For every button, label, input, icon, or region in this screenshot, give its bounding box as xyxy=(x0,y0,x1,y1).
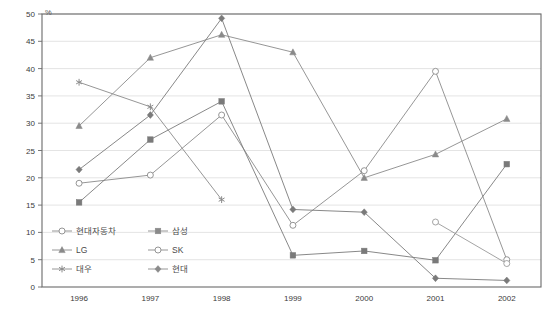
x-tick-label: 2000 xyxy=(355,294,373,303)
legend-marker-open-circle xyxy=(155,247,161,253)
data-point xyxy=(219,99,225,105)
series-line xyxy=(79,71,507,259)
data-point xyxy=(147,172,153,178)
legend-item-SK[interactable]: SK xyxy=(148,245,184,255)
y-tick-label: 25 xyxy=(26,147,35,156)
series-line xyxy=(79,18,507,280)
legend: 현대자동차삼성LGSK대우현대 xyxy=(52,226,188,274)
y-tick-label: 10 xyxy=(26,228,35,237)
data-point xyxy=(219,112,225,118)
legend-marker-open-circle xyxy=(59,228,65,234)
data-point xyxy=(290,206,296,213)
legend-item-대우[interactable]: 대우 xyxy=(52,264,92,274)
series-line xyxy=(79,101,507,260)
y-tick-label: 35 xyxy=(26,92,35,101)
data-point xyxy=(433,257,439,263)
data-point xyxy=(504,115,510,121)
data-point xyxy=(433,219,439,225)
y-tick-label: 40 xyxy=(26,65,35,74)
data-point xyxy=(218,31,224,37)
data-point xyxy=(361,168,367,174)
x-tick-label: 1998 xyxy=(213,294,231,303)
legend-label: 대우 xyxy=(76,264,92,274)
legend-item-현대[interactable]: 현대 xyxy=(148,264,188,274)
data-point xyxy=(433,68,439,74)
data-point xyxy=(76,79,82,86)
legend-label: 현대 xyxy=(172,264,188,274)
legend-label: 삼성 xyxy=(172,226,188,236)
legend-label: SK xyxy=(172,245,184,255)
series-LG xyxy=(76,31,510,180)
x-tick-label: 2001 xyxy=(427,294,445,303)
y-tick-label: 0 xyxy=(31,283,36,292)
x-axis: 1996199719981999200020012002 xyxy=(70,294,516,303)
legend-item-LG[interactable]: LG xyxy=(52,245,87,255)
y-tick-label: 30 xyxy=(26,119,35,128)
data-point xyxy=(76,200,82,206)
x-tick-label: 2002 xyxy=(498,294,516,303)
data-point xyxy=(290,253,296,259)
x-tick-label: 1999 xyxy=(284,294,302,303)
legend-label: LG xyxy=(76,245,87,255)
legend-item-삼성[interactable]: 삼성 xyxy=(148,226,188,236)
y-tick-label: 45 xyxy=(26,37,35,46)
line-chart: 05101520253035404550%1996199719981999200… xyxy=(0,0,553,320)
y-tick-label: 20 xyxy=(26,174,35,183)
legend-item-현대자동차[interactable]: 현대자동차 xyxy=(52,226,116,236)
y-axis-unit: % xyxy=(45,8,52,17)
series-line xyxy=(436,222,507,263)
y-tick-label: 5 xyxy=(31,256,36,265)
x-tick-label: 1997 xyxy=(141,294,159,303)
data-point xyxy=(504,277,510,284)
data-point xyxy=(432,151,438,157)
y-axis: 05101520253035404550 xyxy=(26,10,42,292)
legend-marker-filled-square xyxy=(155,228,161,234)
x-tick-label: 1996 xyxy=(70,294,88,303)
data-point xyxy=(148,137,154,143)
series-현대자동차 xyxy=(76,68,510,262)
data-point xyxy=(290,222,296,228)
legend-marker-filled-diamond xyxy=(155,266,161,273)
data-point xyxy=(361,248,367,254)
series-line xyxy=(79,35,507,178)
data-point xyxy=(504,261,510,267)
y-tick-label: 50 xyxy=(26,10,35,19)
data-point xyxy=(504,161,510,167)
data-point xyxy=(76,180,82,186)
y-tick-label: 15 xyxy=(26,201,35,210)
chart-canvas: 05101520253035404550%1996199719981999200… xyxy=(0,0,553,320)
data-point xyxy=(76,166,82,173)
legend-label: 현대자동차 xyxy=(76,226,116,236)
